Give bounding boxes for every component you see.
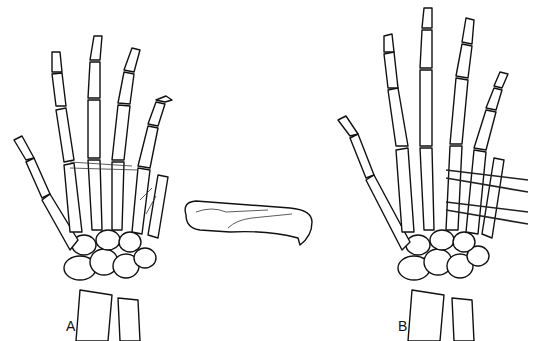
panel-label-a: A: [66, 318, 75, 334]
hand-skeleton-a: [14, 36, 172, 341]
hand-skeleton-b: [338, 8, 528, 341]
fifth-metacarpal-inset: [185, 201, 312, 245]
figure-canvas: [0, 0, 536, 341]
panel-label-b: B: [398, 318, 407, 334]
